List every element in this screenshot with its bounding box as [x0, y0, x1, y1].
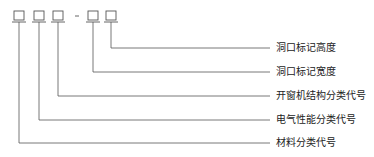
- label-electrical-performance-code: 电气性能分类代号: [276, 114, 356, 126]
- code-box: [53, 11, 63, 20]
- leader-line: [19, 22, 270, 143]
- leader-line: [93, 22, 270, 72]
- leader-line: [111, 22, 270, 48]
- label-opening-height: 洞口标记高度: [276, 42, 336, 54]
- code-diagram: [0, 0, 374, 157]
- label-window-opener-structure-code: 开窗机结构分类代号: [276, 90, 366, 102]
- code-box: [88, 11, 98, 20]
- code-box: [14, 11, 24, 20]
- label-material-code: 材料分类代号: [276, 137, 336, 149]
- label-opening-width: 洞口标记宽度: [276, 66, 336, 78]
- leader-line: [58, 22, 270, 96]
- code-box: [106, 11, 116, 20]
- code-box: [34, 11, 44, 20]
- leader-line: [39, 22, 270, 120]
